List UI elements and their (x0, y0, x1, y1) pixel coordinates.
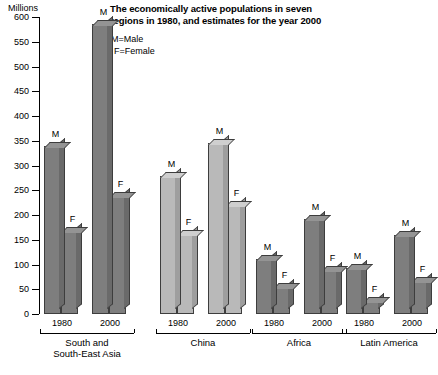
bar-side-face (192, 226, 198, 309)
bar-top-face (44, 142, 71, 148)
y-axis-tick-label: 150 (0, 235, 29, 245)
group-label-line-1: South and (53, 337, 121, 348)
y-axis-tick (32, 141, 39, 142)
bar-value-label-m: M (168, 160, 176, 169)
bar-value-label-f: F (118, 180, 124, 189)
group-label-latin-america: Latin America (360, 337, 418, 348)
x-axis-year-label: 2000 (216, 318, 236, 328)
group-label-line-1: Africa (287, 337, 311, 348)
group-bracket (40, 333, 134, 334)
bar-side-face (59, 138, 65, 309)
x-axis-year-label: 1980 (264, 318, 284, 328)
x-axis-year-label: 1980 (52, 318, 72, 328)
bar-m-1980 (256, 259, 273, 314)
bar-m-2000 (92, 24, 109, 314)
bar-top-face (61, 227, 88, 233)
bar-top-face (109, 192, 136, 198)
group-label-china: China (191, 337, 216, 348)
group-bracket (252, 333, 346, 334)
x-axis-year-label: 2000 (100, 318, 120, 328)
bar-value-label-f: F (420, 265, 426, 274)
bar-value-label-m: M (354, 252, 362, 261)
bar-value-label-m: M (312, 203, 320, 212)
y-axis-tick (32, 42, 39, 43)
bar-top-face (411, 277, 438, 283)
y-axis-tick-label: 200 (0, 210, 29, 220)
group-label-line-1: Latin America (360, 337, 418, 348)
bar-m-2000 (208, 143, 225, 314)
y-axis-tick-label: 300 (0, 161, 29, 171)
y-axis-tick-label: 50 (0, 284, 29, 294)
chart-title-line-1: The economically active populations in s… (110, 3, 385, 15)
bar-value-label-f: F (330, 254, 336, 263)
y-axis-tick-label: 500 (0, 62, 29, 72)
bar-value-label-m: M (52, 130, 60, 139)
y-axis-tick-label: 600 (0, 12, 29, 22)
bar-side-face (223, 135, 229, 309)
bar-top-face (177, 230, 204, 236)
y-axis-tick-label: 400 (0, 111, 29, 121)
bar-side-face (240, 197, 246, 309)
bar-top-face (273, 283, 300, 289)
bar-side-face (175, 168, 181, 309)
bar-side-face (76, 223, 82, 309)
group-bracket-end (250, 329, 251, 333)
group-label-line-2: South-East Asia (53, 348, 121, 359)
bar-m-1980 (346, 268, 363, 314)
group-label-africa: Africa (287, 337, 311, 348)
group-bracket-end (40, 329, 41, 333)
bar-top-face (346, 264, 373, 270)
bar-m-2000 (394, 235, 411, 314)
group-bracket-end (436, 329, 437, 333)
bar-top-face (321, 266, 348, 272)
bar-side-face (107, 16, 113, 309)
bar-top-face (256, 255, 283, 261)
y-axis-tick (32, 240, 39, 241)
y-axis-tick (32, 17, 39, 18)
bar-value-label-m: M (100, 8, 108, 17)
bar-top-face (160, 172, 187, 178)
bar-value-label-f: F (282, 271, 288, 280)
bar-top-face (304, 215, 331, 221)
y-axis-tick (32, 215, 39, 216)
group-bracket-end (156, 329, 157, 333)
bar-top-face (394, 231, 421, 237)
bar-top-face (92, 20, 119, 26)
bar-side-face (319, 211, 325, 309)
bar-m-2000 (304, 219, 321, 314)
bar-value-label-f: F (234, 189, 240, 198)
bar-value-label-f: F (372, 285, 378, 294)
y-axis-tick-label: 0 (0, 309, 29, 319)
bar-value-label-f: F (70, 215, 76, 224)
y-axis-tick (32, 67, 39, 68)
y-axis-tick (32, 116, 39, 117)
y-axis-tick-label: 450 (0, 86, 29, 96)
y-axis-tick (32, 314, 39, 315)
x-axis-year-label: 2000 (402, 318, 422, 328)
group-label-south-and-south-east-asia: South andSouth-East Asia (53, 337, 121, 359)
bar-side-face (409, 227, 415, 309)
y-axis-tick-label: 250 (0, 185, 29, 195)
x-axis-year-label: 2000 (312, 318, 332, 328)
bar-m-1980 (160, 176, 177, 314)
x-axis-year-label: 1980 (168, 318, 188, 328)
bar-top-face (363, 297, 390, 303)
y-axis-tick (32, 265, 39, 266)
y-axis-tick-label: 550 (0, 37, 29, 47)
bar-value-label-f: F (186, 218, 192, 227)
x-axis-year-label: 1980 (354, 318, 374, 328)
group-bracket-end (342, 329, 343, 333)
group-bracket-end (252, 329, 253, 333)
plot-area: MFMFMFMFMFMFMFMF (40, 17, 392, 314)
group-bracket (156, 333, 250, 334)
group-label-line-1: China (191, 337, 216, 348)
y-axis-tick (32, 190, 39, 191)
y-axis-tick (32, 166, 39, 167)
bar-top-face (208, 139, 235, 145)
group-bracket-end (134, 329, 135, 333)
bar-value-label-m: M (216, 127, 224, 136)
bar-top-face (225, 201, 252, 207)
y-axis-tick (32, 289, 39, 290)
bar-side-face (124, 188, 130, 309)
